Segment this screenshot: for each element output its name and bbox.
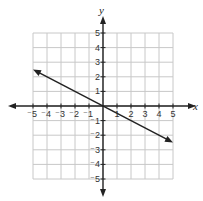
y-axis-label: y bbox=[98, 4, 104, 16]
x-tick-label: ⁻4 bbox=[41, 109, 51, 119]
coordinate-plane: ⁻5⁻4⁻3⁻2⁻112345⁻5⁻4⁻3⁻2⁻112345 x y bbox=[0, 0, 203, 201]
x-axis-label: x bbox=[192, 100, 198, 112]
y-tick-label: ⁻3 bbox=[90, 145, 100, 155]
y-tick-label: ⁻4 bbox=[90, 159, 100, 169]
y-tick-label: 1 bbox=[95, 86, 100, 96]
y-tick-label: 2 bbox=[95, 72, 100, 82]
y-axis-up-arrow-icon bbox=[100, 16, 106, 24]
line-end-arrow-icon bbox=[164, 136, 173, 143]
x-tick-label: ⁻2 bbox=[69, 109, 79, 119]
y-axis-down-arrow-icon bbox=[100, 189, 106, 197]
x-axis-left-arrow-icon bbox=[8, 103, 16, 109]
x-tick-label: ⁻3 bbox=[55, 109, 65, 119]
y-tick-label: ⁻5 bbox=[90, 174, 100, 184]
line-start-arrow-icon bbox=[33, 70, 42, 77]
y-tick-label: 5 bbox=[95, 28, 100, 38]
axes bbox=[8, 16, 196, 197]
y-tick-label: ⁻1 bbox=[90, 116, 100, 126]
y-tick-label: ⁻2 bbox=[90, 130, 100, 140]
x-tick-label: 4 bbox=[156, 109, 161, 119]
x-tick-label: 2 bbox=[128, 109, 133, 119]
y-tick-label: 3 bbox=[95, 57, 100, 67]
x-tick-label: 3 bbox=[142, 109, 147, 119]
x-tick-label: ⁻5 bbox=[27, 109, 37, 119]
x-tick-label: 5 bbox=[170, 109, 175, 119]
y-tick-label: 4 bbox=[95, 43, 100, 53]
